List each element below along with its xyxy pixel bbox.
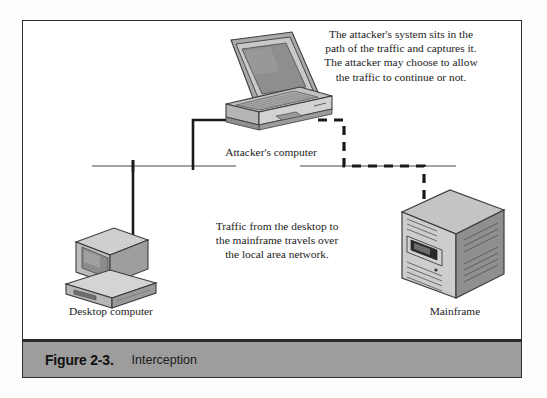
figure-number: Figure 2-3. xyxy=(45,352,114,368)
attacker-computer-label: Attacker's computer xyxy=(196,146,346,158)
traffic-annotation-text: Traffic from the desktop to the mainfram… xyxy=(196,219,358,262)
figure-caption-bar: Figure 2-3. Interception xyxy=(23,339,521,377)
attacker-annotation-text: The attacker's system sits in the path o… xyxy=(296,27,506,84)
figure-title: Interception xyxy=(132,353,197,367)
desktop-computer-illustration xyxy=(52,222,170,314)
mainframe-illustration xyxy=(392,182,516,306)
mainframe-label: Mainframe xyxy=(400,305,510,317)
desktop-computer-label: Desktop computer xyxy=(36,305,186,317)
figure-page: The attacker's system sits in the path o… xyxy=(0,0,547,398)
